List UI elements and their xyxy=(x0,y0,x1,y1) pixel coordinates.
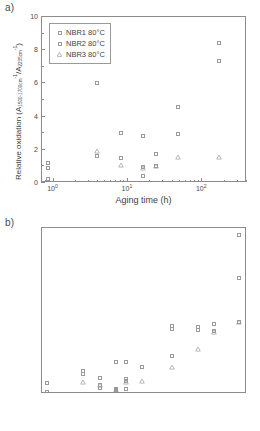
x-tick xyxy=(246,180,247,183)
x-tick xyxy=(224,180,225,183)
x-tick xyxy=(75,180,76,183)
y-tick xyxy=(41,49,45,50)
data-point-square xyxy=(196,328,200,332)
y-tick-label: 8 xyxy=(19,46,38,53)
data-point-triangle xyxy=(95,148,100,153)
data-point-triangle xyxy=(236,320,241,325)
legend-label: NBR2 80°C xyxy=(66,39,105,48)
legend-square-icon xyxy=(53,42,66,46)
panel-b-plot-frame xyxy=(41,227,246,393)
data-point-square xyxy=(119,131,123,135)
y-tick xyxy=(41,182,45,183)
x-tick-label: 101 xyxy=(122,185,133,192)
data-point-square xyxy=(95,81,99,85)
panel-b-plot-area xyxy=(42,228,245,392)
data-point-square xyxy=(237,276,241,280)
data-point-square xyxy=(237,233,241,237)
data-point-square xyxy=(119,156,123,160)
x-tick xyxy=(97,180,98,183)
data-point-square xyxy=(176,132,180,136)
x-tick xyxy=(123,180,124,183)
panel-a-legend: NBR1 80°CNBR2 80°CNBR3 80°C xyxy=(49,23,111,64)
y-tick-minor xyxy=(41,132,44,133)
y-tick-minor xyxy=(41,165,44,166)
x-tick xyxy=(201,178,202,182)
data-point-triangle xyxy=(154,163,159,168)
data-point-square xyxy=(114,360,118,364)
legend-label: NBR3 80°C xyxy=(66,50,105,59)
y-tick-minor xyxy=(41,33,44,34)
x-tick xyxy=(185,180,186,183)
y-tick-label: 4 xyxy=(19,112,38,119)
y-tick-label: 6 xyxy=(19,79,38,86)
data-point-square xyxy=(212,322,216,326)
legend-label: NBR1 80°C xyxy=(66,28,105,37)
data-point-square xyxy=(124,360,128,364)
y-tick xyxy=(41,149,45,150)
x-tick xyxy=(237,180,238,183)
legend-triangle-icon xyxy=(53,52,66,57)
data-point-square xyxy=(45,381,49,385)
y-tick-label: 2 xyxy=(19,145,38,152)
data-point-triangle xyxy=(123,379,128,384)
data-point-square xyxy=(140,365,144,369)
panel-a: a) Relative oxidation (A1500-1700cm-1/A2… xyxy=(0,0,260,215)
data-point-triangle xyxy=(114,388,119,392)
y-tick-label: 0 xyxy=(19,179,38,186)
x-tick xyxy=(53,178,54,182)
data-point-square xyxy=(217,59,221,63)
x-tick xyxy=(149,180,150,183)
data-point-square xyxy=(170,354,174,358)
y-tick-label: 10 xyxy=(19,13,38,20)
data-point-triangle xyxy=(216,155,221,160)
legend-item: NBR3 80°C xyxy=(53,49,105,60)
y-tick xyxy=(41,82,45,83)
panel-a-x-axis-title: Aging time (h) xyxy=(41,195,246,205)
panel-a-tag: a) xyxy=(5,2,14,13)
data-point-triangle xyxy=(169,365,174,370)
data-point-triangle xyxy=(97,383,102,388)
x-tick xyxy=(45,180,46,183)
x-tick xyxy=(115,180,116,183)
data-point-square xyxy=(46,166,50,170)
legend-item: NBR1 80°C xyxy=(53,27,105,38)
data-point-triangle xyxy=(141,166,146,171)
y-title-mid: /A xyxy=(14,67,23,75)
y-tick-minor xyxy=(41,99,44,100)
data-point-square xyxy=(81,372,85,376)
data-point-triangle xyxy=(80,380,85,385)
legend-square-icon xyxy=(53,31,66,35)
x-tick xyxy=(194,180,195,183)
data-point-square xyxy=(45,390,49,392)
data-point-square xyxy=(141,134,145,138)
data-point-triangle xyxy=(118,162,123,167)
data-point-square xyxy=(95,154,99,158)
data-point-square xyxy=(176,105,180,109)
y-tick xyxy=(41,116,45,117)
x-tick xyxy=(49,180,50,183)
x-tick xyxy=(190,180,191,183)
panel-b-tag: b) xyxy=(5,217,14,228)
data-point-square xyxy=(170,327,174,331)
data-point-square xyxy=(98,376,102,380)
x-tick-label: 102 xyxy=(196,185,207,192)
x-tick xyxy=(41,180,42,183)
x-tick xyxy=(104,180,105,183)
x-tick xyxy=(172,180,173,183)
x-tick xyxy=(179,180,180,183)
y-tick xyxy=(41,16,45,17)
data-point-square xyxy=(124,387,128,391)
legend-item: NBR2 80°C xyxy=(53,38,105,49)
data-point-square xyxy=(141,174,145,178)
data-point-square xyxy=(154,152,158,156)
x-tick xyxy=(88,180,89,183)
x-tick xyxy=(120,180,121,183)
data-point-square xyxy=(46,161,50,165)
y-title-sup1: -1 xyxy=(12,74,18,78)
data-point-square xyxy=(217,41,221,45)
x-tick xyxy=(127,178,128,182)
data-point-triangle xyxy=(175,155,180,160)
x-tick-label: 100 xyxy=(47,185,58,192)
panel-b: b) Relative oxidation (A1500-1700cm-1/A2… xyxy=(0,215,260,430)
data-point-triangle xyxy=(139,379,144,384)
